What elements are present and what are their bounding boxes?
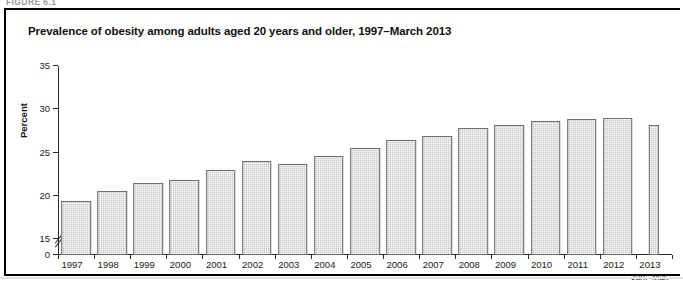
bar-slot bbox=[491, 66, 527, 255]
bar-2001[interactable] bbox=[206, 170, 236, 255]
x-axis-label-2007: 2007 bbox=[423, 259, 444, 270]
x-axis-label-1998: 1998 bbox=[98, 259, 119, 270]
bar-slot bbox=[130, 66, 166, 255]
x-axis-label-2004: 2004 bbox=[314, 259, 335, 270]
bar-2012[interactable] bbox=[603, 118, 633, 255]
x-axis-tick bbox=[600, 255, 601, 259]
x-axis-label-2012: 2012 bbox=[603, 259, 624, 270]
x-axis-tick bbox=[636, 255, 637, 259]
bar-slot bbox=[419, 66, 455, 255]
bar-slot bbox=[166, 66, 202, 255]
bar-2011[interactable] bbox=[567, 119, 597, 255]
chart-title: Prevalence of obesity among adults aged … bbox=[28, 25, 451, 37]
x-axis-tick bbox=[672, 255, 673, 259]
y-axis-title: Percent bbox=[18, 103, 29, 138]
bar-slot bbox=[58, 66, 94, 255]
bar-slot bbox=[347, 66, 383, 255]
x-axis-tick bbox=[383, 255, 384, 259]
figure-caption-strip: FIGURE 6.1 bbox=[6, 0, 56, 6]
x-axis-tick bbox=[166, 255, 167, 259]
x-axis-tick bbox=[455, 255, 456, 259]
bar-2010[interactable] bbox=[531, 121, 561, 255]
bar-slot bbox=[564, 66, 600, 255]
x-axis-tick bbox=[347, 255, 348, 259]
bars-layer bbox=[58, 66, 672, 255]
bar-slot bbox=[275, 66, 311, 255]
x-axis-tick bbox=[419, 255, 420, 259]
x-axis-label-2008: 2008 bbox=[459, 259, 480, 270]
x-axis-label-1997: 1997 bbox=[61, 259, 82, 270]
plot-area: 15202530350 bbox=[58, 66, 672, 255]
x-axis-tick bbox=[311, 255, 312, 259]
x-axis-tick bbox=[564, 255, 565, 259]
bar-2013[interactable] bbox=[649, 125, 659, 255]
bar-slot bbox=[455, 66, 491, 255]
y-axis-tick-label: 20 bbox=[39, 189, 50, 200]
bar-2002[interactable] bbox=[242, 161, 272, 255]
x-axis-label-2001: 2001 bbox=[206, 259, 227, 270]
bar-slot bbox=[311, 66, 347, 255]
bar-2003[interactable] bbox=[278, 164, 308, 255]
bar-slot bbox=[600, 66, 636, 255]
y-axis-tick-label: 25 bbox=[39, 146, 50, 157]
y-axis-tick-label: 30 bbox=[39, 103, 50, 114]
bar-1998[interactable] bbox=[97, 191, 127, 255]
bar-1999[interactable] bbox=[133, 183, 163, 255]
x-axis-label-2000: 2000 bbox=[170, 259, 191, 270]
bar-slot bbox=[239, 66, 275, 255]
x-axis-label-2006: 2006 bbox=[387, 259, 408, 270]
bar-slot bbox=[528, 66, 564, 255]
x-axis-label-2009: 2009 bbox=[495, 259, 516, 270]
x-axis-label-2010: 2010 bbox=[531, 259, 552, 270]
x-axis-label-2005: 2005 bbox=[350, 259, 371, 270]
bar-2006[interactable] bbox=[386, 140, 416, 255]
x-axis-tick bbox=[130, 255, 131, 259]
x-axis-label-2011: 2011 bbox=[567, 259, 587, 270]
y-axis-tick-label: 15 bbox=[39, 233, 50, 244]
x-axis-tick bbox=[239, 255, 240, 259]
page-bottom-edge bbox=[0, 277, 683, 279]
x-axis-tick bbox=[528, 255, 529, 259]
bar-slot bbox=[383, 66, 419, 255]
bar-slot bbox=[636, 66, 672, 255]
x-axis-tick bbox=[202, 255, 203, 259]
bar-2005[interactable] bbox=[350, 148, 380, 255]
figure-border-box: Prevalence of obesity among adults aged … bbox=[4, 8, 680, 276]
bar-2009[interactable] bbox=[495, 125, 525, 255]
bar-1997[interactable] bbox=[61, 201, 91, 255]
x-axis-tick bbox=[94, 255, 95, 259]
bar-2004[interactable] bbox=[314, 156, 344, 255]
bar-2008[interactable] bbox=[459, 128, 489, 255]
x-axis-tick bbox=[58, 255, 59, 259]
y-axis-tick-label: 35 bbox=[39, 60, 50, 71]
x-axis-tick bbox=[275, 255, 276, 259]
bar-slot bbox=[94, 66, 130, 255]
bar-slot bbox=[202, 66, 238, 255]
x-axis-label-2013: 2013 bbox=[639, 259, 660, 270]
x-axis-label-1999: 1999 bbox=[134, 259, 155, 270]
bar-2007[interactable] bbox=[422, 136, 452, 255]
y-axis-tick-label: 0 bbox=[45, 249, 50, 260]
x-axis-label-2003: 2003 bbox=[278, 259, 299, 270]
x-axis-label-2002: 2002 bbox=[242, 259, 263, 270]
x-axis-tick bbox=[491, 255, 492, 259]
bar-2000[interactable] bbox=[170, 180, 200, 255]
